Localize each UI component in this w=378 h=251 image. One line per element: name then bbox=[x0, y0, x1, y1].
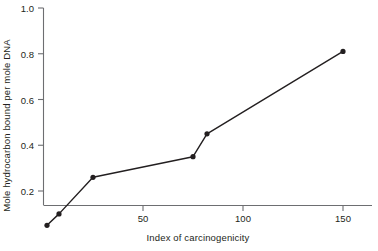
y-tick-label-0.2: 0.2 bbox=[10, 186, 34, 197]
y-tick-label-0.8: 0.8 bbox=[10, 49, 34, 60]
y-tick-label-0.4: 0.4 bbox=[10, 140, 34, 151]
data-point bbox=[56, 211, 61, 216]
y-tick-label-1.0: 1.0 bbox=[10, 3, 34, 14]
y-tick-label-0.6: 0.6 bbox=[10, 95, 34, 106]
data-point bbox=[190, 154, 195, 159]
data-point bbox=[340, 49, 345, 54]
x-tick-label-150: 150 bbox=[325, 213, 361, 224]
y-tick-marks bbox=[38, 8, 44, 191]
x-axis-title: Index of carcinogenicity bbox=[0, 232, 378, 243]
x-tick-label-50: 50 bbox=[125, 213, 161, 224]
data-point bbox=[204, 131, 209, 136]
data-line bbox=[47, 51, 343, 225]
data-point bbox=[90, 175, 95, 180]
x-tick-marks bbox=[143, 206, 343, 212]
data-point bbox=[44, 223, 49, 228]
x-tick-label-100: 100 bbox=[225, 213, 261, 224]
plot-area bbox=[0, 0, 378, 251]
chart-figure: Mole hydrocarbon bound per mole DNA Inde… bbox=[0, 0, 378, 251]
data-markers bbox=[44, 49, 345, 228]
y-axis-title: Mole hydrocarbon bound per mole DNA bbox=[0, 0, 14, 251]
